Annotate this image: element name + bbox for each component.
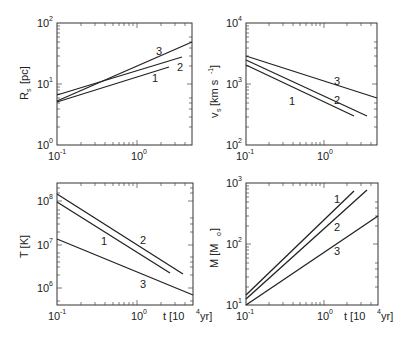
svg-text:10: 10 bbox=[37, 195, 49, 207]
svg-text:s: s bbox=[215, 108, 222, 112]
svg-text:1: 1 bbox=[49, 76, 53, 83]
x-axis-label: t [10 4 yr] bbox=[344, 308, 393, 322]
svg-text:yr]: yr] bbox=[381, 310, 393, 322]
svg-text:2: 2 bbox=[238, 137, 242, 144]
figure-panels: 1 2 3 102 101 100 10-1 100 R s [pc] bbox=[0, 0, 405, 342]
y-tick-labels: 102 101 100 bbox=[37, 15, 53, 151]
curve-label-2: 2 bbox=[334, 221, 340, 233]
svg-text:10: 10 bbox=[317, 150, 329, 162]
y-axis-label: R s [pc] bbox=[18, 66, 32, 100]
svg-text:o: o bbox=[215, 232, 222, 236]
svg-text:6: 6 bbox=[49, 280, 53, 287]
svg-text:]: ] bbox=[208, 65, 220, 68]
svg-text:R: R bbox=[18, 92, 30, 100]
svg-text:10: 10 bbox=[226, 238, 238, 250]
svg-text:T [K]: T [K] bbox=[18, 235, 30, 258]
curve-label-1: 1 bbox=[289, 95, 295, 107]
panel-vs: 1 2 3 104 103 102 10-1 100 v s [km s -1 … bbox=[207, 15, 377, 162]
svg-text:10: 10 bbox=[37, 239, 49, 251]
curve-3 bbox=[57, 42, 192, 101]
plot-frame bbox=[57, 23, 192, 145]
curve-2 bbox=[57, 194, 183, 274]
curve-2 bbox=[57, 57, 182, 95]
svg-text:10: 10 bbox=[236, 310, 248, 322]
curve-label-2: 2 bbox=[140, 234, 146, 246]
svg-text:t [10: t [10 bbox=[344, 310, 365, 322]
curve-3 bbox=[246, 216, 378, 305]
panel-rs: 1 2 3 102 101 100 10-1 100 R s [pc] bbox=[18, 15, 192, 162]
svg-text:10: 10 bbox=[48, 310, 60, 322]
y-axis-label: M [M o ] bbox=[208, 228, 222, 268]
y-axis-label: v s [km s -1 ] bbox=[207, 65, 222, 118]
svg-text:4: 4 bbox=[238, 15, 242, 22]
svg-text:1: 1 bbox=[238, 297, 242, 304]
svg-text:-1: -1 bbox=[248, 148, 254, 155]
x-tick-labels: 10-1 100 bbox=[48, 148, 147, 162]
svg-text:0: 0 bbox=[49, 137, 53, 144]
svg-text:10: 10 bbox=[37, 17, 49, 29]
x-tick-labels: 10-1 100 bbox=[236, 148, 333, 162]
curve-2 bbox=[246, 60, 367, 116]
svg-text:3: 3 bbox=[238, 76, 242, 83]
svg-text:t [10: t [10 bbox=[163, 310, 184, 322]
svg-text:8: 8 bbox=[49, 193, 53, 200]
svg-text:10: 10 bbox=[236, 150, 248, 162]
svg-text:10: 10 bbox=[317, 310, 329, 322]
y-tick-labels: 103 102 101 bbox=[226, 175, 242, 311]
svg-text:0: 0 bbox=[329, 148, 333, 155]
svg-text:7: 7 bbox=[49, 237, 53, 244]
svg-text:-1: -1 bbox=[248, 308, 254, 315]
curve-label-1: 1 bbox=[334, 193, 340, 205]
svg-text:M [M: M [M bbox=[208, 244, 220, 268]
plot-frame bbox=[246, 23, 377, 145]
svg-text:10: 10 bbox=[226, 177, 238, 189]
svg-text:]: ] bbox=[208, 228, 220, 231]
curve-label-2: 2 bbox=[177, 61, 183, 73]
svg-text:-1: -1 bbox=[60, 148, 66, 155]
x-axis-label: t [10 4 yr] bbox=[163, 308, 212, 322]
svg-text:10: 10 bbox=[37, 78, 49, 90]
svg-text:0: 0 bbox=[143, 308, 147, 315]
svg-text:3: 3 bbox=[238, 175, 242, 182]
svg-text:0: 0 bbox=[143, 148, 147, 155]
svg-text:[km s: [km s bbox=[208, 79, 220, 106]
svg-text:0: 0 bbox=[329, 308, 333, 315]
y-axis-label: T [K] bbox=[18, 235, 30, 258]
curve-label-3: 3 bbox=[334, 245, 340, 257]
svg-text:10: 10 bbox=[131, 150, 143, 162]
curve-label-2: 2 bbox=[334, 94, 340, 106]
svg-text:s: s bbox=[25, 88, 32, 92]
curve-2 bbox=[246, 190, 367, 299]
svg-text:10: 10 bbox=[131, 310, 143, 322]
svg-text:[pc]: [pc] bbox=[18, 66, 30, 84]
curve-label-3: 3 bbox=[156, 45, 162, 57]
curve-label-3: 3 bbox=[140, 278, 146, 290]
curve-label-3: 3 bbox=[334, 75, 340, 87]
svg-text:10: 10 bbox=[226, 78, 238, 90]
x-tick-labels: 10-1 100 bbox=[48, 308, 147, 322]
plot-frame bbox=[246, 183, 378, 305]
curve-3 bbox=[246, 56, 377, 98]
svg-text:10: 10 bbox=[48, 150, 60, 162]
y-tick-labels: 108 107 106 bbox=[37, 193, 53, 294]
y-tick-labels: 104 103 102 bbox=[226, 15, 242, 151]
svg-text:10: 10 bbox=[37, 282, 49, 294]
svg-text:yr]: yr] bbox=[200, 310, 212, 322]
curve-label-1: 1 bbox=[152, 72, 158, 84]
svg-text:2: 2 bbox=[238, 236, 242, 243]
curve-label-1: 1 bbox=[101, 235, 107, 247]
svg-text:10: 10 bbox=[226, 17, 238, 29]
svg-text:2: 2 bbox=[49, 15, 53, 22]
x-tick-labels: 10-1 100 bbox=[236, 308, 333, 322]
panel-temperature: 1 2 3 108 107 106 10-1 100 T [K] t [10 4… bbox=[18, 183, 212, 322]
svg-text:-1: -1 bbox=[60, 308, 66, 315]
panel-mass: 1 2 3 103 102 101 10-1 100 M [M o ] t [1… bbox=[208, 175, 393, 322]
